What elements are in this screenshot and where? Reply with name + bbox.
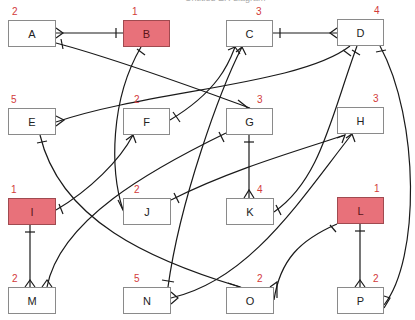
entity-f[interactable]: F xyxy=(123,108,170,135)
entity-b[interactable]: B xyxy=(123,20,170,47)
entity-j-count: 2 xyxy=(134,184,140,195)
entity-i[interactable]: I xyxy=(8,198,56,225)
entity-c-count: 3 xyxy=(256,6,262,17)
rel-d-e xyxy=(56,46,350,122)
entity-m[interactable]: M xyxy=(8,287,56,314)
entity-o-count: 2 xyxy=(257,273,263,284)
rel-l-o xyxy=(274,224,337,300)
entity-n[interactable]: N xyxy=(123,287,171,314)
rel-d-p xyxy=(380,46,411,305)
entity-g[interactable]: G xyxy=(226,108,273,135)
entity-d[interactable]: D xyxy=(337,19,384,46)
entity-m-count: 2 xyxy=(12,273,18,284)
entity-l[interactable]: L xyxy=(337,197,384,224)
entity-h[interactable]: H xyxy=(337,107,384,134)
entity-c[interactable]: C xyxy=(226,20,273,47)
entity-p[interactable]: P xyxy=(337,287,384,314)
entity-e[interactable]: E xyxy=(8,108,56,135)
entity-g-count: 3 xyxy=(257,94,263,105)
entity-b-count: 1 xyxy=(132,6,138,17)
entity-i-count: 1 xyxy=(11,184,17,195)
er-diagram-canvas: Untitled ER diagram xyxy=(0,0,415,320)
entity-o[interactable]: O xyxy=(226,287,274,314)
rel-i-f xyxy=(56,135,133,210)
entity-k[interactable]: K xyxy=(226,198,274,225)
entity-l-count: 1 xyxy=(374,183,380,194)
entity-k-count: 4 xyxy=(257,184,263,195)
entity-a-count: 2 xyxy=(12,6,18,17)
entity-j[interactable]: J xyxy=(123,198,171,225)
entity-h-count: 3 xyxy=(373,93,379,104)
relationship-lines xyxy=(0,0,415,320)
entity-a[interactable]: A xyxy=(8,20,56,47)
entity-f-count: 2 xyxy=(134,94,140,105)
entity-d-count: 4 xyxy=(374,5,380,16)
entity-p-count: 2 xyxy=(373,273,379,284)
entity-n-count: 5 xyxy=(134,273,140,284)
entity-e-count: 5 xyxy=(11,94,17,105)
